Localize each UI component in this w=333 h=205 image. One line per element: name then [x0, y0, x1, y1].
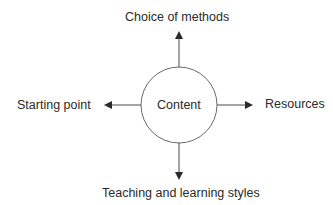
arrow-up-icon: [175, 31, 183, 67]
node-label-right: Resources: [265, 97, 325, 111]
arrow-left-icon: [104, 101, 141, 109]
center-label-content: Content: [157, 98, 201, 112]
node-label-top: Choice of methods: [125, 10, 229, 24]
node-label-left: Starting point: [17, 98, 91, 112]
node-label-bottom: Teaching and learning styles: [102, 186, 260, 200]
arrow-down-icon: [175, 143, 183, 180]
content-diagram: Content Choice of methods Starting point…: [0, 0, 333, 205]
arrow-right-icon: [217, 101, 253, 109]
